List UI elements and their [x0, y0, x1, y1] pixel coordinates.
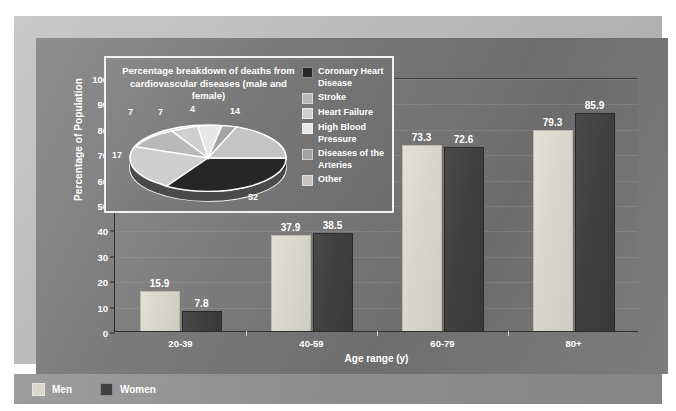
bar-value-label: 37.9 [281, 222, 300, 233]
color-swatch-icon [302, 67, 313, 78]
x-axis-title: Age range (y) [115, 353, 638, 364]
pie-value-label: 17 [112, 150, 122, 160]
color-swatch-icon [302, 175, 313, 186]
bar-value-label: 38.5 [323, 220, 342, 231]
bar-80plus-women[interactable]: 85.9 [575, 113, 615, 331]
x-tick-mark [377, 331, 378, 336]
inset-legend-label: Diseases of the Arteries [318, 148, 394, 171]
pie-value-label: 4 [190, 104, 195, 114]
pie-svg [120, 106, 300, 206]
bar-40-59-men[interactable]: 37.9 [271, 235, 311, 331]
y-axis-title: Percentage of Population [73, 60, 84, 220]
pie-chart: 521777414 [120, 106, 300, 206]
legend-label: Women [120, 384, 156, 395]
inset-title: Percentage breakdown of deaths from card… [116, 65, 301, 103]
color-swatch-icon [302, 108, 313, 119]
legend-item-men[interactable]: Men [32, 383, 72, 396]
pie-slices [130, 125, 286, 191]
bar-value-label: 15.9 [150, 278, 169, 289]
pie-value-label: 7 [158, 107, 163, 117]
bar-60-79-men[interactable]: 73.3 [402, 145, 442, 331]
pie-value-label: 14 [230, 106, 240, 116]
bar-value-label: 7.8 [195, 298, 209, 309]
legend-item-women[interactable]: Women [100, 383, 156, 396]
inset-legend-item[interactable]: Other [302, 174, 394, 186]
bar-value-label: 72.6 [454, 134, 473, 145]
x-tick-mark [246, 331, 247, 336]
bar-20-39-women[interactable]: 7.8 [182, 311, 222, 331]
inset-legend-label: Stroke [318, 92, 346, 104]
chart-screenshot: Percentage of Population 010203040506070… [0, 0, 676, 411]
inset-legend-item[interactable]: High Blood Pressure [302, 122, 394, 145]
bar-value-label: 73.3 [412, 132, 431, 143]
color-swatch-icon [302, 93, 313, 104]
legend-label: Men [52, 384, 72, 395]
bar-60-79-women[interactable]: 72.6 [444, 147, 484, 331]
bar-20-39-men[interactable]: 15.9 [140, 291, 180, 331]
x-tick-label: 60-79 [430, 338, 454, 349]
chart-outer-frame: Percentage of Population 010203040506070… [14, 16, 662, 364]
inset-legend-item[interactable]: Stroke [302, 92, 394, 104]
bar-value-label: 85.9 [585, 100, 604, 111]
inset-pie-panel: Percentage breakdown of deaths from card… [104, 56, 394, 213]
color-swatch-icon [302, 123, 313, 134]
inset-legend-item[interactable]: Coronary Heart Disease [302, 66, 394, 89]
bar-40-59-women[interactable]: 38.5 [313, 233, 353, 331]
chart-panel: Percentage of Population 010203040506070… [36, 38, 668, 374]
bar-80plus-men[interactable]: 79.3 [533, 130, 573, 331]
bar-value-label: 79.3 [543, 117, 562, 128]
inset-legend-item[interactable]: Diseases of the Arteries [302, 148, 394, 171]
x-tick-mark [508, 331, 509, 336]
x-tick-label: 80+ [565, 338, 581, 349]
pie-value-label: 52 [248, 192, 258, 202]
series-legend: MenWomen [14, 374, 662, 404]
pie-value-label: 7 [128, 107, 133, 117]
inset-legend-label: Heart Failure [318, 107, 373, 119]
inset-legend: Coronary Heart DiseaseStrokeHeart Failur… [302, 66, 394, 189]
inset-legend-item[interactable]: Heart Failure [302, 107, 394, 119]
inset-legend-label: High Blood Pressure [318, 122, 394, 145]
x-tick-label: 20-39 [168, 338, 192, 349]
color-swatch-icon [302, 149, 313, 160]
y-tick-mark [110, 333, 115, 334]
color-swatch-icon [100, 383, 113, 396]
x-tick-label: 40-59 [299, 338, 323, 349]
inset-legend-label: Coronary Heart Disease [318, 66, 394, 89]
color-swatch-icon [32, 383, 45, 396]
inset-legend-label: Other [318, 174, 342, 186]
